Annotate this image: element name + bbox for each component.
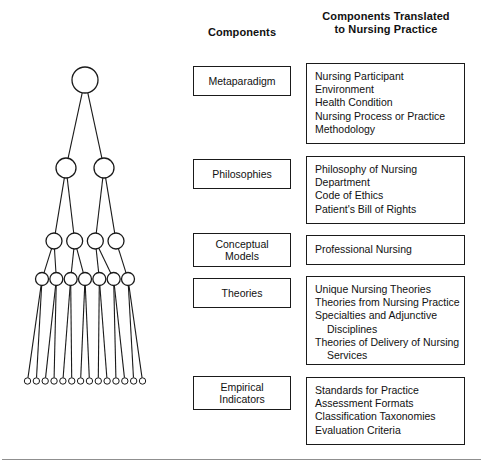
translated-item: Specialties and Adjunctive (315, 309, 464, 322)
column-heading-translated: Components Translated to Nursing Practic… (300, 10, 472, 36)
component-label-line: Metaparadigm (208, 75, 275, 88)
tree-node-conceptual-models-level (46, 233, 62, 249)
tree-node-empirical-indicators-level (77, 378, 83, 384)
translated-item: Professional Nursing (315, 243, 412, 256)
translated-box-metaparadigm: Nursing Participant Environment Health C… (306, 63, 465, 144)
tree-node-theories-level (93, 273, 106, 286)
diagram-page: Components Components Translated to Nurs… (0, 0, 483, 471)
translated-list: Philosophy of Nursing Department Code of… (315, 163, 464, 216)
tree-edge (85, 285, 89, 377)
component-label: Empirical Indicators (219, 381, 265, 406)
translated-item: Philosophy of Nursing (315, 163, 464, 176)
component-label-line: Conceptual (215, 238, 268, 251)
translated-item: Nursing Participant (315, 70, 464, 83)
tree-edge (55, 178, 64, 233)
tree-edge (98, 286, 99, 378)
tree-edge (63, 285, 70, 377)
translated-list: Unique Nursing Theories Theories from Nu… (315, 283, 464, 362)
column-heading-translated-line2: to Nursing Practice (335, 23, 438, 35)
tree-node-empirical-indicators-level (139, 378, 145, 384)
translated-item: Disciplines (315, 323, 464, 336)
tree-nodes (24, 67, 145, 384)
translated-list: Nursing Participant Environment Health C… (315, 70, 464, 136)
tree-node-empirical-indicators-level (33, 378, 39, 384)
tree-node-empirical-indicators-level (86, 378, 92, 384)
tree-node-conceptual-models-level (108, 233, 124, 249)
component-box-conceptual-models: Conceptual Models (193, 233, 291, 267)
translated-item: Standards for Practice (315, 384, 464, 397)
translated-list: Professional Nursing (315, 243, 412, 256)
footer-divider (2, 459, 481, 460)
tree-node-theories-level (36, 273, 49, 286)
translated-item: Nursing Process or Practice (315, 110, 464, 123)
translated-item: Theories from Nursing Practice (315, 296, 464, 309)
tree-edge (99, 248, 111, 273)
translated-item: Evaluation Criteria (315, 424, 464, 437)
translated-item: Environment (315, 83, 464, 96)
translated-list: Standards for Practice Assessment Format… (315, 384, 464, 437)
tree-node-theories-level (107, 273, 120, 286)
tree-node-metaparadigm-level (72, 67, 98, 93)
component-label-line: Philosophies (212, 168, 272, 181)
translated-item: Department (315, 176, 464, 189)
tree-edge (96, 249, 98, 273)
tree-edge (54, 249, 55, 273)
tree-node-empirical-indicators-level (42, 378, 48, 384)
translated-item: Health Condition (315, 96, 464, 109)
tree-edge (118, 249, 126, 273)
translated-box-philosophies: Philosophy of Nursing Department Code of… (306, 156, 465, 224)
tree-node-empirical-indicators-level (104, 378, 110, 384)
component-box-empirical-indicators: Empirical Indicators (193, 376, 291, 410)
tree-node-theories-level (79, 273, 92, 286)
tree-node-theories-level (50, 273, 63, 286)
column-heading-translated-line1: Components Translated (322, 10, 449, 22)
tree-node-empirical-indicators-level (60, 378, 66, 384)
tree-edge (77, 249, 84, 273)
translated-box-theories: Unique Nursing Theories Theories from Nu… (306, 276, 465, 365)
component-label: Conceptual Models (215, 238, 268, 263)
translated-item: Services (315, 349, 464, 362)
column-heading-components: Components (193, 26, 291, 39)
tree-edge (96, 178, 103, 233)
translated-box-conceptual-models: Professional Nursing (306, 235, 465, 265)
tree-node-theories-level (122, 273, 135, 286)
component-box-metaparadigm: Metaparadigm (193, 66, 291, 96)
component-label-line: Theories (222, 287, 263, 300)
component-label-line: Models (215, 250, 268, 263)
translated-item: Theories of Delivery of Nursing (315, 336, 464, 349)
tree-edge (71, 249, 73, 273)
component-box-philosophies: Philosophies (193, 159, 291, 189)
component-label-line: Empirical (219, 381, 265, 394)
tree-edge (68, 93, 82, 159)
tree-edge (44, 249, 52, 273)
tree-node-empirical-indicators-level (113, 378, 119, 384)
translated-item: Assessment Formats (315, 397, 464, 410)
tree-node-empirical-indicators-level (24, 378, 30, 384)
tree-edge (67, 178, 74, 233)
tree-edge (71, 286, 72, 378)
tree-node-conceptual-models-level (67, 233, 83, 249)
tree-edge (81, 285, 85, 377)
tree-edge (106, 178, 115, 233)
component-box-theories: Theories (193, 278, 291, 308)
tree-edge (100, 285, 107, 377)
tree-edges (28, 93, 142, 378)
translated-item: Classification Taxonomies (315, 410, 464, 423)
translated-item: Methodology (315, 123, 464, 136)
translated-item: Patient's Bill of Rights (315, 203, 464, 216)
tree-node-theories-level (64, 273, 77, 286)
translated-box-empirical-indicators: Standards for Practice Assessment Format… (306, 377, 465, 445)
tree-node-empirical-indicators-level (122, 378, 128, 384)
tree-node-empirical-indicators-level (51, 378, 57, 384)
tree-edge (88, 93, 102, 159)
tree-node-empirical-indicators-level (130, 378, 136, 384)
tree-node-philosophies-level (94, 158, 114, 178)
tree-node-empirical-indicators-level (69, 378, 75, 384)
tree-node-conceptual-models-level (87, 233, 103, 249)
translated-item: Code of Ethics (315, 189, 464, 202)
translated-item: Unique Nursing Theories (315, 283, 464, 296)
tree-node-empirical-indicators-level (95, 378, 101, 384)
tree-node-philosophies-level (56, 158, 76, 178)
component-label-line: Indicators (219, 393, 265, 406)
hierarchy-tree-diagram (0, 0, 185, 400)
